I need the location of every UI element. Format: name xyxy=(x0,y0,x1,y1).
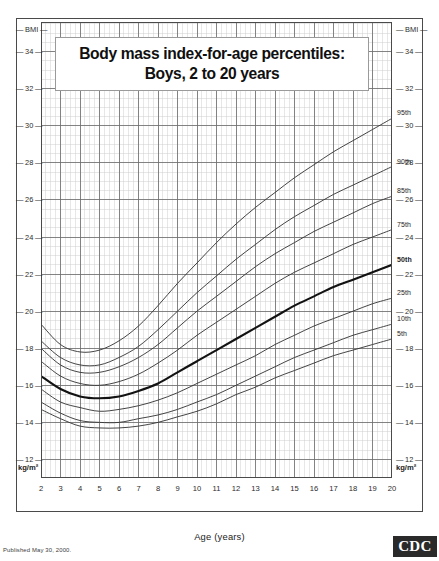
x-tick-4: 4 xyxy=(70,484,90,493)
x-tick-12: 12 xyxy=(226,484,246,493)
y-tick-28-left: — 28 — xyxy=(16,158,42,167)
x-tick-11: 11 xyxy=(207,484,227,493)
page-title-line-1: Body mass index-for-age percentiles: xyxy=(79,44,345,64)
x-tick-6: 6 xyxy=(109,484,129,493)
page-title-line-2: Boys, 2 to 20 years xyxy=(145,64,280,84)
y-tick-32-left: — 32 — xyxy=(16,84,42,93)
y-tick-34-right: — 34 — xyxy=(396,47,422,56)
percentile-label-85th: 85th xyxy=(397,187,411,194)
y-tick-22-right: — 22 — xyxy=(396,270,422,279)
y-tick-32-right: — 32 — xyxy=(396,84,422,93)
percentile-label-90th: 90th xyxy=(397,158,411,165)
x-tick-20: 20 xyxy=(382,484,402,493)
y-axis-unit-right: kg/m² xyxy=(396,463,416,472)
y-tick-18-right: — 18 — xyxy=(396,344,422,353)
percentile-label-50th: 50th xyxy=(397,256,412,263)
x-tick-2: 2 xyxy=(31,484,51,493)
y-tick-26-right: — 26 — xyxy=(396,195,422,204)
y-tick-30-left: — 30 — xyxy=(16,121,42,130)
y-tick-12-right: — 12 — xyxy=(396,455,422,464)
y-tick-14-right: — 14 — xyxy=(396,418,422,427)
y-tick-16-left: — 16 — xyxy=(16,381,42,390)
cdc-logo: CDC xyxy=(393,536,437,557)
y-axis-unit-left: kg/m² xyxy=(18,463,38,472)
x-tick-9: 9 xyxy=(168,484,188,493)
y-tick-24-right: — 24 — xyxy=(396,233,422,242)
percentile-label-95th: 95th xyxy=(397,109,411,116)
chart-title-plate: Body mass index-for-age percentiles: Boy… xyxy=(55,37,369,91)
x-tick-16: 16 xyxy=(304,484,324,493)
x-tick-13: 13 xyxy=(246,484,266,493)
y-axis-header-left: — BMI — xyxy=(16,25,42,34)
y-tick-20-left: — 20 — xyxy=(16,307,42,316)
x-tick-18: 18 xyxy=(343,484,363,493)
y-tick-34-left: — 34 — xyxy=(16,47,42,56)
y-tick-12-left: — 12 — xyxy=(16,455,42,464)
y-tick-14-left: — 14 — xyxy=(16,418,42,427)
y-tick-18-left: — 18 — xyxy=(16,344,42,353)
x-tick-10: 10 xyxy=(187,484,207,493)
x-tick-8: 8 xyxy=(148,484,168,493)
x-tick-19: 19 xyxy=(363,484,383,493)
y-tick-22-left: — 22 — xyxy=(16,270,42,279)
x-tick-14: 14 xyxy=(265,484,285,493)
y-tick-16-right: — 16 — xyxy=(396,381,422,390)
x-axis-title: Age (years) xyxy=(0,531,439,542)
percentile-label-25th: 25th xyxy=(397,289,411,296)
y-tick-24-left: — 24 — xyxy=(16,233,42,242)
y-tick-26-left: — 26 — xyxy=(16,195,42,204)
x-tick-15: 15 xyxy=(285,484,305,493)
y-tick-30-right: — 30 — xyxy=(396,121,422,130)
percentile-label-75th: 75th xyxy=(397,221,411,228)
x-tick-7: 7 xyxy=(129,484,149,493)
percentile-label-5th: 5th xyxy=(397,330,407,337)
x-tick-17: 17 xyxy=(324,484,344,493)
x-tick-3: 3 xyxy=(51,484,71,493)
percentile-label-10th: 10th xyxy=(397,315,411,322)
y-axis-header-right: — BMI — xyxy=(396,25,422,34)
x-tick-5: 5 xyxy=(90,484,110,493)
published-date: Published May 30, 2000. xyxy=(3,547,71,553)
